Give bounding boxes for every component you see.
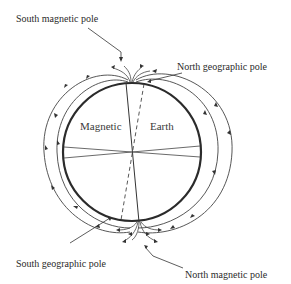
label-north-magnetic-pole: North magnetic pole xyxy=(185,269,267,281)
magnetic-field-diagram xyxy=(0,0,291,284)
label-north-geographic-pole: North geographic pole xyxy=(177,61,267,73)
label-magnetic: Magnetic xyxy=(80,120,122,133)
leader-lines xyxy=(70,28,183,268)
label-south-magnetic-pole: South magnetic pole xyxy=(16,13,98,25)
label-south-geographic-pole: South geographic pole xyxy=(16,258,106,270)
field-arrows xyxy=(45,69,231,229)
south-pole-bundle xyxy=(118,222,160,241)
label-earth: Earth xyxy=(150,120,174,133)
